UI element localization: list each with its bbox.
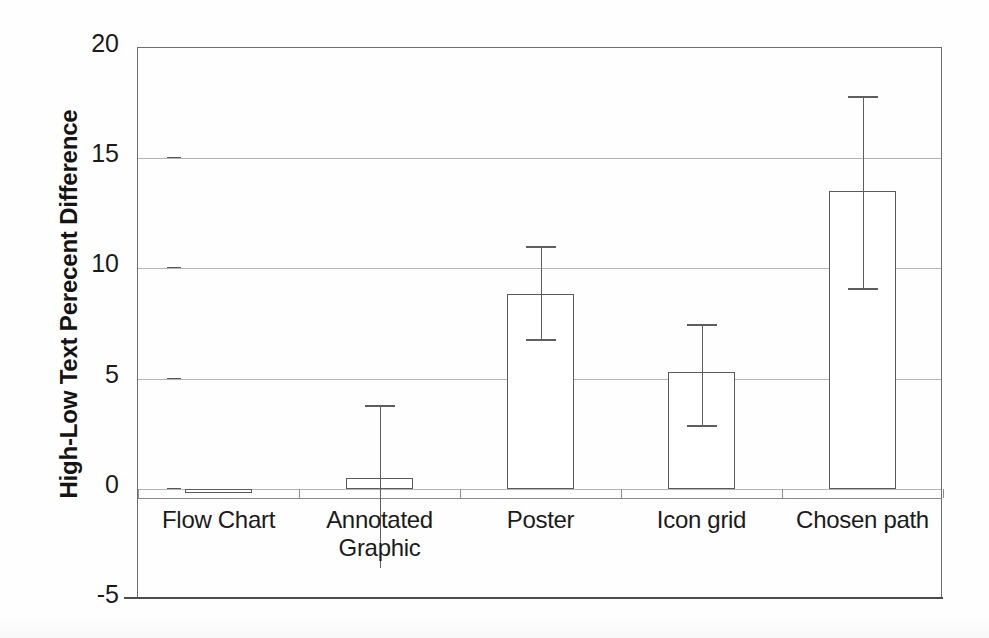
error-bar-cap-upper [526, 246, 556, 248]
page-edge-shading [0, 614, 989, 638]
category-separator-tick [621, 489, 622, 498]
y-axis-tick-label: 20 [59, 31, 119, 56]
bar [185, 489, 253, 493]
error-bar-cap-upper [687, 324, 717, 326]
x-axis-category-label-line: Icon grid [621, 506, 782, 534]
y-axis-tick-label: 15 [59, 141, 119, 166]
error-bar-cap-lower [526, 339, 556, 341]
x-axis-category-label-line: Poster [460, 506, 621, 534]
x-axis-category-label: Poster [460, 506, 621, 534]
category-separator-tick [460, 489, 461, 498]
error-bar-stem [702, 324, 703, 425]
zero-baseline [138, 489, 941, 490]
x-axis-category-label-line: Chosen path [782, 506, 943, 534]
error-bar-cap-upper [365, 405, 395, 407]
error-bar-stem [541, 246, 542, 339]
x-axis-category-label-line: Graphic [299, 534, 460, 562]
chart-figure: High-Low Text Perecent Difference 201510… [0, 0, 989, 638]
gridline [138, 268, 941, 269]
x-axis-category-label: Icon grid [621, 506, 782, 534]
error-bar-cap-lower [848, 288, 878, 290]
category-separator-tick [782, 489, 783, 498]
x-axis-category-label-line: Flow Chart [138, 506, 299, 534]
category-separator-tick [138, 489, 139, 498]
x-axis-category-label: Flow Chart [138, 506, 299, 534]
category-separator-tick [943, 489, 944, 498]
x-axis-category-label: AnnotatedGraphic [299, 506, 460, 562]
plot-area: Flow ChartAnnotatedGraphicPosterIcon gri… [137, 47, 942, 598]
x-axis-category-label-line: Annotated [299, 506, 460, 534]
y-axis-tick-label: -5 [59, 582, 119, 607]
y-axis-tick-label: 10 [59, 251, 119, 276]
error-bar-cap-upper [848, 96, 878, 98]
y-axis-tick-label: 0 [59, 472, 119, 497]
gridline [138, 158, 941, 159]
error-bar-cap-lower [687, 425, 717, 427]
x-axis-category-label: Chosen path [782, 506, 943, 534]
y-axis-tick-label: 5 [59, 362, 119, 387]
error-bar-stem [863, 96, 864, 288]
y-axis-tick-labels: 20151050-5 [45, 0, 119, 638]
category-separator-tick [299, 489, 300, 498]
category-band-divider [138, 498, 941, 499]
